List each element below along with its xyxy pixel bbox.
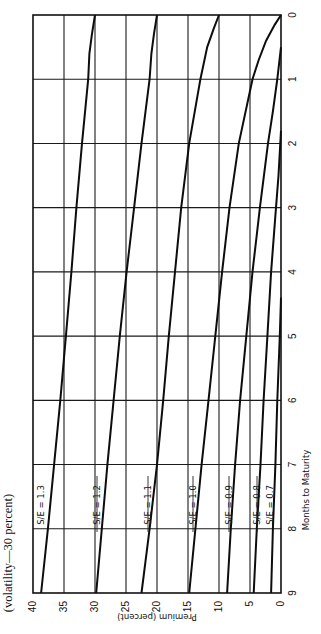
curve-13 bbox=[41, 15, 95, 593]
month-tick: 9 bbox=[287, 590, 298, 596]
x-axis-title: Months to Maturity bbox=[301, 450, 311, 531]
premium-tick: 20 bbox=[151, 601, 162, 613]
curve-11 bbox=[142, 15, 220, 593]
month-tick: 6 bbox=[287, 397, 298, 403]
month-tick: 5 bbox=[287, 333, 298, 339]
y-axis-title: Premium (percent) bbox=[117, 612, 197, 622]
month-tick: 1 bbox=[287, 76, 298, 82]
curve-label: S/E = 0.7 bbox=[265, 485, 275, 525]
curves bbox=[41, 15, 281, 593]
month-tick: 8 bbox=[287, 526, 298, 532]
premium-tick: 10 bbox=[213, 601, 224, 613]
curve-label: S/E = 1.3 bbox=[36, 485, 46, 525]
premium-tick: 0 bbox=[275, 601, 286, 607]
month-tick: 2 bbox=[287, 140, 298, 146]
option-premium-chart: S/E = 1.3S/E = 1.2S/E = 1.1S/E = 1.0S/E … bbox=[0, 0, 321, 634]
premium-tick: 25 bbox=[120, 601, 131, 613]
month-tick: 0 bbox=[287, 12, 298, 18]
chart-title: (volatility—30 percent) bbox=[1, 494, 15, 612]
month-tick: 3 bbox=[287, 204, 298, 210]
premium-tick: 40 bbox=[27, 601, 38, 613]
month-tick: 4 bbox=[287, 269, 298, 275]
premium-tick: 15 bbox=[182, 601, 193, 613]
premium-tick: 30 bbox=[89, 601, 100, 613]
premium-tick: 35 bbox=[58, 601, 69, 613]
premium-tick: 5 bbox=[244, 601, 255, 607]
month-tick: 7 bbox=[287, 461, 298, 467]
grid bbox=[33, 15, 281, 593]
curve-07 bbox=[271, 298, 281, 593]
